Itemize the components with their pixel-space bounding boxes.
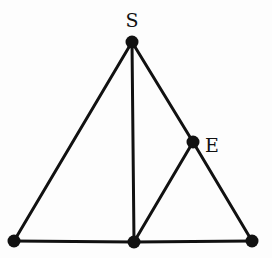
node-label-s: S: [125, 9, 138, 31]
edge-e-bm: [134, 142, 193, 242]
labels: SE: [125, 9, 218, 156]
node-label-e: E: [205, 134, 219, 156]
graph-diagram: SE: [0, 0, 272, 258]
edge-bm-br: [134, 241, 252, 242]
edge-s-bm: [132, 42, 134, 242]
node-br: [246, 235, 259, 248]
edge-bl-bm: [14, 241, 134, 242]
node-e: [187, 136, 200, 149]
node-bl: [8, 235, 21, 248]
edge-e-br: [193, 142, 252, 241]
edge-s-bl: [14, 42, 132, 241]
node-s: [126, 36, 139, 49]
edge-s-e: [132, 42, 193, 142]
node-bm: [128, 236, 141, 249]
